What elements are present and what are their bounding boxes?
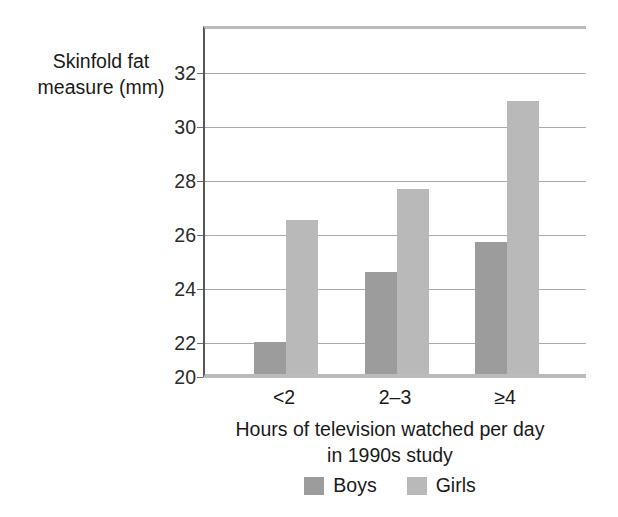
skinfold-fat-bar-chart: Skinfold fat measure (mm) 32 30 28 26 24… [0, 0, 618, 517]
bar-girls-2to3 [397, 189, 429, 374]
legend-label-girls: Girls [436, 474, 476, 497]
gridline-32 [205, 73, 586, 74]
chart-legend: Boys Girls [160, 474, 618, 497]
y-tick-label-26: 26 [152, 224, 196, 247]
x-tick-label-2to3: 2–3 [345, 386, 445, 409]
plot-area [203, 26, 586, 378]
y-tick-label-22: 22 [152, 332, 196, 355]
bar-boys-lt2 [254, 342, 286, 374]
x-axis-title: Hours of television watched per day in 1… [160, 416, 618, 468]
legend-item-boys: Boys [304, 474, 376, 497]
bar-girls-ge4 [507, 101, 539, 374]
x-tick-label-lt2: <2 [234, 386, 334, 409]
legend-swatch-girls-icon [407, 477, 427, 495]
y-tick-label-20: 20 [152, 366, 196, 389]
y-tick-label-28: 28 [152, 170, 196, 193]
y-axis-title: Skinfold fat measure (mm) [26, 48, 176, 100]
bar-girls-lt2 [286, 220, 318, 374]
legend-swatch-boys-icon [304, 477, 324, 495]
bar-boys-2to3 [365, 272, 397, 374]
bar-boys-ge4 [475, 242, 507, 374]
legend-label-boys: Boys [333, 474, 376, 497]
y-tick-label-24: 24 [152, 278, 196, 301]
x-tick-label-ge4: ≥4 [455, 386, 555, 409]
legend-item-girls: Girls [407, 474, 476, 497]
y-tick-label-30: 30 [152, 116, 196, 139]
